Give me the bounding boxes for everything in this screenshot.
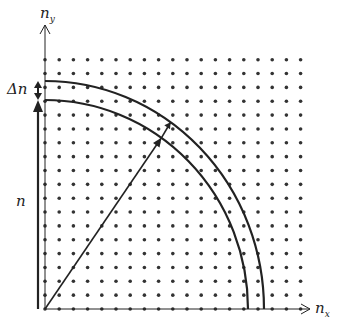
- lattice-point: [242, 169, 246, 173]
- lattice-point: [57, 113, 61, 117]
- lattice-point: [199, 238, 203, 242]
- lattice-point: [256, 183, 260, 187]
- lattice-point: [214, 252, 218, 256]
- lattice-point: [114, 183, 118, 187]
- lattice-point: [228, 58, 232, 62]
- lattice-point: [100, 58, 104, 62]
- lattice-point: [199, 72, 203, 76]
- lattice-point: [199, 280, 203, 284]
- lattice-point: [171, 280, 175, 284]
- lattice-point: [57, 155, 61, 159]
- lattice-point: [285, 266, 289, 270]
- lattice-point: [270, 155, 274, 159]
- lattice-point: [270, 266, 274, 270]
- lattice-point: [171, 293, 175, 297]
- lattice-point: [143, 280, 147, 284]
- lattice-point: [100, 183, 104, 187]
- lattice-point: [270, 113, 274, 117]
- lattice-point: [57, 183, 61, 187]
- lattice-point: [143, 86, 147, 90]
- lattice-point: [171, 155, 175, 159]
- lattice-point: [299, 155, 303, 159]
- lattice-point: [256, 280, 260, 284]
- lattice-point: [185, 196, 189, 200]
- lattice-point: [114, 141, 118, 145]
- x-axis-label: nx: [315, 299, 330, 319]
- lattice-point: [228, 127, 232, 131]
- lattice-point: [270, 210, 274, 214]
- lattice-point: [72, 169, 76, 173]
- lattice-point: [171, 183, 175, 187]
- lattice-point: [171, 196, 175, 200]
- lattice-point: [228, 72, 232, 76]
- lattice-point: [72, 210, 76, 214]
- lattice-point: [72, 58, 76, 62]
- lattice-point: [157, 72, 161, 76]
- lattice-point: [100, 293, 104, 297]
- lattice-point: [72, 183, 76, 187]
- lattice-point: [299, 280, 303, 284]
- lattice-point: [57, 141, 61, 145]
- lattice-point: [214, 210, 218, 214]
- lattice-point: [285, 280, 289, 284]
- lattice-point: [199, 196, 203, 200]
- lattice-point: [57, 238, 61, 242]
- lattice-point: [228, 141, 232, 145]
- lattice-point: [143, 196, 147, 200]
- lattice-point: [299, 266, 303, 270]
- lattice-point: [185, 210, 189, 214]
- lattice-point: [285, 141, 289, 145]
- lattice-point: [185, 293, 189, 297]
- lattice-point: [299, 238, 303, 242]
- lattice-point: [157, 293, 161, 297]
- lattice-point: [72, 238, 76, 242]
- lattice-point: [100, 238, 104, 242]
- lattice-point: [72, 86, 76, 90]
- lattice-point: [199, 113, 203, 117]
- lattice-point: [57, 72, 61, 76]
- lattice-point: [242, 196, 246, 200]
- lattice-point: [114, 127, 118, 131]
- lattice-point: [86, 169, 90, 173]
- lattice-point: [114, 72, 118, 76]
- lattice-point: [86, 58, 90, 62]
- lattice-point: [86, 113, 90, 117]
- lattice-point: [143, 113, 147, 117]
- lattice-point: [256, 238, 260, 242]
- lattice-point: [72, 224, 76, 228]
- lattice-point: [128, 266, 132, 270]
- lattice-point: [199, 127, 203, 131]
- lattice-point: [214, 266, 218, 270]
- inner-shell-arc: [45, 100, 248, 309]
- lattice-point: [86, 72, 90, 76]
- lattice-point: [228, 99, 232, 103]
- lattice-point: [143, 155, 147, 159]
- lattice-point: [114, 252, 118, 256]
- lattice-point: [185, 183, 189, 187]
- lattice-point: [114, 224, 118, 228]
- lattice-point: [285, 293, 289, 297]
- lattice-point: [114, 58, 118, 62]
- lattice-point: [128, 113, 132, 117]
- lattice-point: [100, 196, 104, 200]
- lattice-point: [72, 196, 76, 200]
- lattice-point: [57, 280, 61, 284]
- lattice-point: [256, 196, 260, 200]
- lattice-point: [270, 183, 274, 187]
- lattice-point: [72, 113, 76, 117]
- lattice-point: [256, 113, 260, 117]
- lattice-point: [214, 293, 218, 297]
- lattice-point: [157, 280, 161, 284]
- lattice-point: [128, 280, 132, 284]
- lattice-point: [242, 72, 246, 76]
- lattice-point: [86, 252, 90, 256]
- lattice-point: [114, 196, 118, 200]
- lattice-point: [185, 169, 189, 173]
- lattice-point: [72, 127, 76, 131]
- lattice-point: [86, 183, 90, 187]
- lattice-point: [214, 280, 218, 284]
- lattice-point: [214, 86, 218, 90]
- lattice-point: [199, 141, 203, 145]
- lattice-point: [299, 72, 303, 76]
- lattice-point: [100, 72, 104, 76]
